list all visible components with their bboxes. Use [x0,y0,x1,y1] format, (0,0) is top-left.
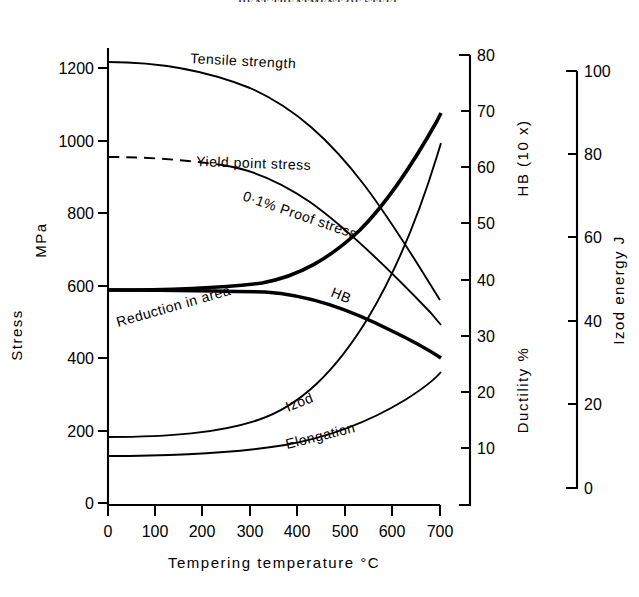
curve-label-izod: Izod [283,389,315,414]
left-tick-1200: 1200 [58,60,94,77]
right-axis-hb-title: HB (10 x) [514,120,531,197]
right-axis-izod: 100 80 60 40 20 0 Izod energy J [566,63,627,497]
left-tick-400: 400 [67,350,94,367]
right2-tick-100: 100 [584,63,611,80]
left-tick-0: 0 [85,495,94,512]
right1-tick-80: 80 [477,47,495,64]
right1-tick-70: 70 [477,103,495,120]
left-axis-unit-label: MPa [32,222,49,257]
left-axis: 1200 1000 800 600 400 200 0 MPa Stress [8,48,440,512]
x-tick-0: 0 [104,523,113,540]
curve-label-yield-point-stress: Yield point stress [196,153,312,173]
right-axis-hb-ductility: 80 70 60 50 40 30 20 10 HB (10 x) Ductil… [459,47,531,505]
curve-hb [108,290,441,358]
right-axis-ductility-title: Ductility % [514,347,531,434]
left-tick-600: 600 [67,278,94,295]
x-tick-300: 300 [237,523,264,540]
curve-label-hb: HB [329,284,354,306]
left-axis-title: Stress [8,309,25,361]
x-tick-200: 200 [189,523,216,540]
right-axis-1-ticks [461,111,470,448]
left-axis-ticks [98,68,108,503]
x-tick-500: 500 [332,523,359,540]
x-tick-600: 600 [379,523,406,540]
chart-svg: 1200 1000 800 600 400 200 0 MPa Stress 0 [0,0,639,597]
left-tick-800: 800 [67,205,94,222]
curve-proof-stress [222,165,441,325]
right2-tick-40: 40 [584,313,602,330]
right1-tick-60: 60 [477,159,495,176]
right1-tick-50: 50 [477,215,495,232]
right2-tick-0: 0 [584,480,593,497]
right2-tick-20: 20 [584,396,602,413]
curve-label-elongation: Elongation [284,419,357,452]
right1-tick-30: 30 [477,328,495,345]
x-axis: 0 100 200 300 400 500 600 700 Tempering … [104,505,454,571]
right-axis-izod-title: Izod energy J [610,235,627,345]
left-tick-1000: 1000 [58,133,94,150]
right-axis-2-ticks [568,154,577,404]
figure-container: HEAT TREATMENT OF STEEL 1200 1000 800 60… [0,0,639,597]
right1-tick-20: 20 [477,384,495,401]
curve-label-tensile-strength: Tensile strength [190,50,297,72]
right1-tick-40: 40 [477,272,495,289]
x-axis-ticks [108,505,440,516]
x-tick-700: 700 [427,523,454,540]
x-tick-100: 100 [142,523,169,540]
right2-tick-80: 80 [584,146,602,163]
right1-tick-10: 10 [477,440,495,457]
x-tick-400: 400 [284,523,311,540]
x-axis-title: Tempering temperature °C [168,554,380,571]
right2-tick-60: 60 [584,229,602,246]
left-tick-200: 200 [67,423,94,440]
